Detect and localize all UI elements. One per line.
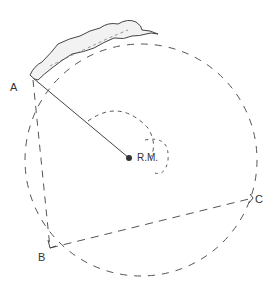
creature-sketch	[30, 20, 158, 80]
radius-line-a	[33, 78, 129, 158]
diagram-drawing	[0, 0, 275, 291]
tick-c	[249, 194, 253, 203]
label-a: A	[10, 82, 17, 93]
chord-bc	[50, 198, 253, 248]
diagram-canvas: A B C R.M.	[0, 0, 275, 291]
label-center: R.M.	[137, 153, 158, 163]
label-c: C	[255, 194, 263, 205]
label-b: B	[38, 252, 45, 263]
chord-ab	[33, 80, 50, 248]
center-dot	[126, 155, 132, 161]
